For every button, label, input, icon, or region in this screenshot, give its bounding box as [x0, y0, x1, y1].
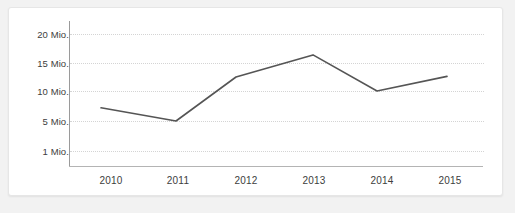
line-chart-plot-area: 20 Mio. 15 Mio. 10 Mio. 5 Mio. 1 Mio. 20…: [9, 8, 504, 197]
chart-card: 20 Mio. 15 Mio. 10 Mio. 5 Mio. 1 Mio. 20…: [8, 7, 503, 196]
x-axis-label-2011: 2011: [148, 175, 208, 186]
x-axis-label-2010: 2010: [81, 175, 141, 186]
x-axis-label-2014: 2014: [352, 175, 412, 186]
data-series-line: [9, 8, 504, 197]
x-axis-label-2012: 2012: [216, 175, 276, 186]
x-axis-label-2015: 2015: [420, 175, 480, 186]
x-axis-label-2013: 2013: [284, 175, 344, 186]
